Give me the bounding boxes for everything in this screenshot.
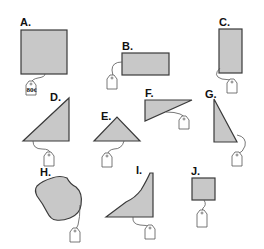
- price-tag-icon: [145, 225, 155, 239]
- price-label: 80¢: [27, 86, 38, 94]
- price-tag-icon: [197, 210, 207, 227]
- tag-string: [202, 200, 205, 211]
- price-tag-icon: [179, 116, 189, 129]
- label-a: A.: [20, 16, 31, 28]
- price-tag-icon: [232, 152, 242, 166]
- price-tag-icon: [70, 228, 80, 242]
- item-j: J.: [191, 165, 215, 227]
- label-g: G.: [205, 88, 217, 100]
- label-c: C.: [219, 16, 230, 28]
- price-tag-icon: [44, 152, 54, 166]
- label-b: B.: [122, 40, 133, 52]
- item-f: F.: [145, 87, 192, 129]
- shape-curved-region: [106, 173, 153, 217]
- item-i: I.: [106, 164, 155, 239]
- label-j: J.: [191, 165, 200, 177]
- label-h: H.: [40, 166, 51, 178]
- shapes-figure: A. 80¢ B. C. D.: [0, 0, 264, 249]
- price-tag-icon: [227, 79, 237, 93]
- tag-string: [237, 135, 245, 154]
- label-d: D.: [50, 91, 61, 103]
- shape-right-triangle-tall: [214, 99, 237, 142]
- item-d: D.: [23, 91, 69, 166]
- item-g: G.: [205, 88, 245, 166]
- shape-square: [21, 30, 67, 74]
- price-tag-icon: [107, 75, 117, 89]
- shape-irregular-blob: [36, 177, 82, 221]
- shape-rectangle: [122, 53, 169, 75]
- shape-small-square: [192, 178, 215, 200]
- shape-right-triangle: [23, 98, 69, 141]
- item-h: H.: [36, 166, 82, 242]
- tag-string: [108, 141, 124, 154]
- tag-string: [33, 141, 50, 153]
- item-c: C.: [216, 16, 242, 93]
- item-a: A. 80¢: [20, 16, 67, 95]
- shape-rectangle-vertical: [219, 29, 242, 73]
- tag-string: [112, 62, 122, 76]
- label-f: F.: [145, 87, 154, 99]
- label-e: E.: [101, 110, 111, 122]
- item-e: E.: [94, 110, 140, 167]
- label-i: I.: [136, 164, 142, 176]
- price-tag-icon: [102, 153, 112, 167]
- item-b: B.: [107, 40, 169, 89]
